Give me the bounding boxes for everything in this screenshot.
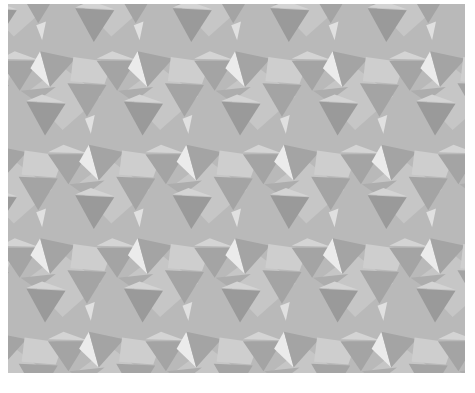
page-root: Abstract Geometric Tetrahedra Pattern Gr… <box>0 0 475 393</box>
pattern-canvas <box>8 4 465 373</box>
tetrahedra-pattern-svg <box>8 4 465 373</box>
